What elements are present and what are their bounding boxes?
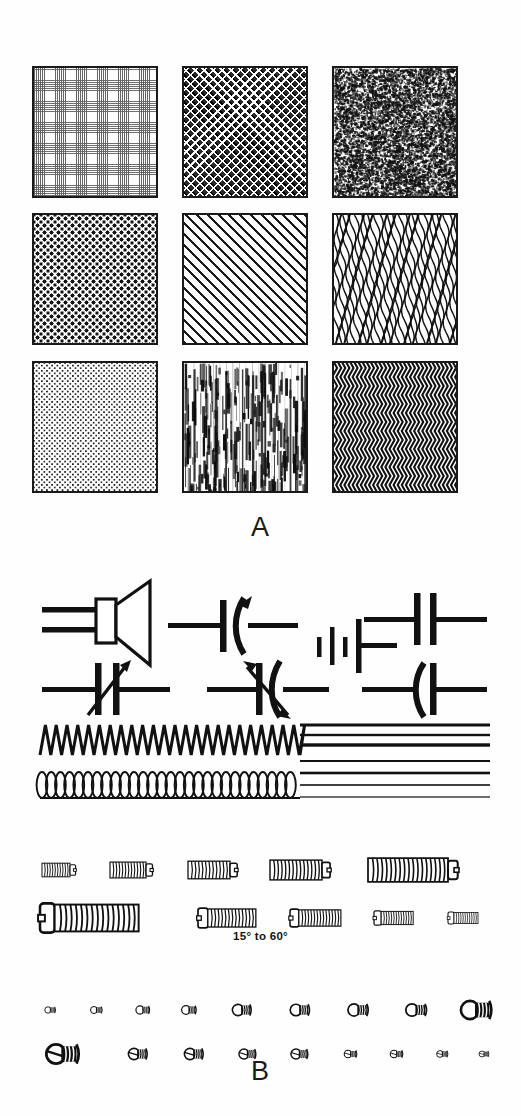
dense-crosshatch-fill bbox=[184, 68, 306, 196]
diagonal-lines-fill bbox=[184, 215, 306, 343]
texture-swatch-diagonal-lines bbox=[182, 213, 308, 345]
round-head-screw-profile bbox=[182, 1006, 197, 1015]
fillister-head-screw bbox=[373, 911, 413, 925]
texture-swatch-vertical-wavy bbox=[332, 213, 458, 345]
round-head-screw-profile bbox=[348, 1004, 368, 1016]
fillister-head-screw bbox=[42, 863, 76, 877]
fillister-head-screw bbox=[197, 908, 256, 928]
texture-swatch-random-noise bbox=[332, 66, 458, 198]
fillister-head-screw bbox=[289, 909, 341, 927]
round-head-screw-profile bbox=[461, 1001, 491, 1019]
grain-canvas bbox=[184, 363, 306, 491]
round-head-screw-profile bbox=[136, 1006, 150, 1014]
polarized-capacitor-symbol bbox=[362, 663, 487, 717]
fine-woven-mesh-fill bbox=[34, 68, 156, 196]
fixed-capacitor-symbol bbox=[364, 593, 487, 645]
texture-swatch-coarse-dots bbox=[32, 213, 158, 345]
fine-stipple-fill bbox=[34, 363, 156, 491]
variable-capacitor-arrow-symbol bbox=[42, 660, 170, 715]
variable-capacitor-symbol bbox=[168, 596, 298, 654]
random-noise-fill bbox=[334, 68, 456, 196]
angle-annotation: 15° to 60° bbox=[0, 930, 521, 942]
trimmer-capacitor-symbol bbox=[207, 661, 329, 719]
fillister-head-screw bbox=[110, 862, 153, 878]
rule-line bbox=[300, 734, 490, 736]
panel-b-caption: B bbox=[0, 1056, 521, 1087]
rule-line bbox=[300, 796, 490, 797]
rule-line bbox=[300, 784, 490, 786]
round-head-screw-profile bbox=[290, 1004, 309, 1015]
herringbone-canvas bbox=[334, 363, 456, 491]
round-head-screw-profile bbox=[91, 1007, 103, 1014]
texture-swatch-wood-grain bbox=[182, 361, 308, 493]
battery-cell-symbol bbox=[317, 619, 397, 673]
texture-swatch-grid bbox=[32, 66, 458, 486]
round-head-screw-profile bbox=[232, 1004, 251, 1015]
texture-swatch-dense-crosshatch bbox=[182, 66, 308, 198]
herringbone-fill bbox=[334, 363, 456, 491]
panel-a-caption: A bbox=[0, 512, 521, 543]
figure-page: A bbox=[0, 0, 521, 1116]
rule-line bbox=[300, 760, 490, 762]
horizontal-rule-weights bbox=[300, 724, 490, 798]
texture-swatch-fine-stipple bbox=[32, 361, 158, 493]
rule-line bbox=[300, 724, 490, 727]
wood-grain-fill bbox=[184, 363, 306, 491]
zigzag-resistor-line bbox=[40, 725, 305, 755]
noise-canvas bbox=[334, 68, 456, 196]
loudspeaker-symbol bbox=[42, 581, 150, 665]
rule-line bbox=[300, 743, 490, 746]
fillister-head-screw bbox=[447, 912, 478, 924]
rule-line bbox=[300, 772, 490, 775]
round-head-screw-profile bbox=[406, 1004, 427, 1016]
vertical-wavy-fill bbox=[334, 215, 456, 343]
fillister-head-screw bbox=[270, 860, 331, 880]
fillister-head-screw bbox=[188, 861, 238, 879]
coarse-dots-fill bbox=[34, 215, 156, 343]
electrical-symbols-group bbox=[0, 575, 521, 820]
coil-inductor-line bbox=[37, 772, 300, 798]
fillister-head-screw bbox=[38, 903, 139, 932]
texture-swatch-herringbone bbox=[332, 361, 458, 493]
round-head-screw-profile bbox=[45, 1007, 56, 1013]
panel-a-texture-grid: A bbox=[0, 0, 521, 560]
panel-b-symbols-and-screws: 15° to 60° B bbox=[0, 575, 521, 1116]
texture-swatch-fine-woven-mesh bbox=[32, 66, 158, 198]
wavy-canvas bbox=[334, 215, 456, 343]
fillister-head-screw bbox=[368, 858, 459, 882]
